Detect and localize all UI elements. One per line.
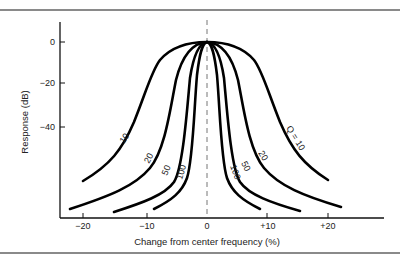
y-ticks: 0 −20 −40 xyxy=(40,37,65,132)
resonance-chart: 0 −20 −40 −20 −10 0 +10 +20 Change from … xyxy=(0,0,400,259)
y-tick-label: −40 xyxy=(40,122,55,132)
response-curves xyxy=(70,42,341,212)
x-tick-label: +10 xyxy=(260,221,275,231)
x-tick-label: +20 xyxy=(320,221,335,231)
x-tick-label: −20 xyxy=(75,221,90,231)
x-ticks: −20 −10 0 +10 +20 xyxy=(75,213,335,231)
x-tick-label: 0 xyxy=(204,221,209,231)
curve-label-q50-left: 50 xyxy=(160,164,173,177)
x-tick-label: −10 xyxy=(139,221,154,231)
x-axis-title: Change from center frequency (%) xyxy=(134,236,280,247)
curve-q20 xyxy=(70,42,341,209)
y-tick-label: 0 xyxy=(50,37,55,47)
y-tick-label: −20 xyxy=(40,78,55,88)
curve-q10 xyxy=(83,42,328,181)
y-axis-title: Response (dB) xyxy=(19,90,30,153)
